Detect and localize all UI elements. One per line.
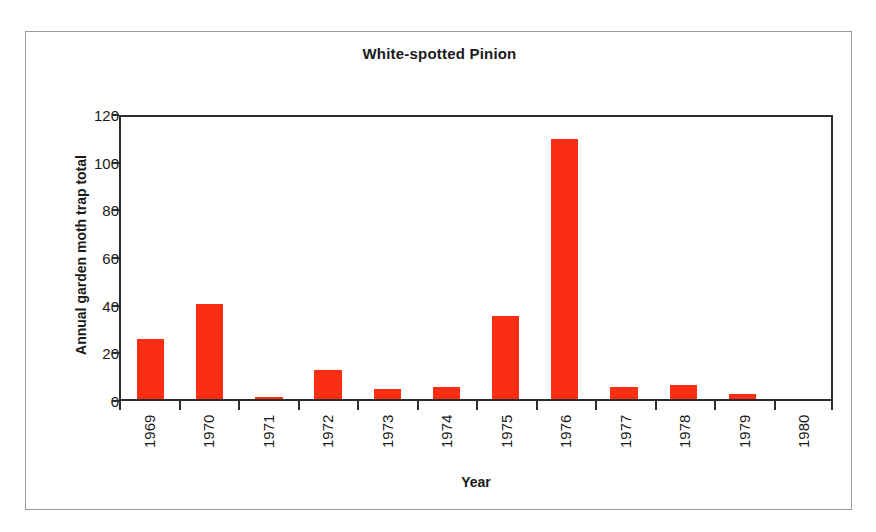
y-tick-mark [112, 209, 119, 211]
x-tick-mark [831, 401, 833, 410]
x-tick-mark [774, 401, 776, 410]
chart-title: White-spotted Pinion [26, 45, 853, 62]
x-tick-label: 1974 [438, 388, 455, 448]
bar-slot [417, 117, 476, 399]
bars-layer [121, 117, 831, 399]
x-label-cell: 1977 [595, 410, 655, 470]
bar [551, 139, 578, 399]
x-tick-label: 1976 [557, 388, 574, 448]
x-tick-label: 1979 [736, 388, 753, 448]
bar [196, 304, 223, 399]
x-tick-label: 1975 [498, 388, 515, 448]
x-label-cell: 1979 [714, 410, 774, 470]
x-tick-mark [179, 401, 181, 410]
x-tick-mark [476, 401, 478, 410]
y-tick-mark [112, 257, 119, 259]
x-tick-label: 1977 [617, 388, 634, 448]
x-tick-mark [595, 401, 597, 410]
bar-slot [358, 117, 417, 399]
x-label-cell: 1974 [417, 410, 477, 470]
x-tick-label: 1969 [141, 388, 158, 448]
plot-area [119, 115, 833, 401]
x-axis-tick-marks [119, 401, 833, 410]
bar-slot [239, 117, 298, 399]
bar-slot [772, 117, 831, 399]
x-tick-mark [238, 401, 240, 410]
y-tick-mark [112, 114, 119, 116]
x-tick-mark [357, 401, 359, 410]
x-label-cell: 1980 [774, 410, 834, 470]
scan-artifact-strip [0, 0, 876, 8]
x-axis-tick-labels: 1969197019711972197319741975197619771978… [119, 410, 833, 470]
x-label-cell: 1969 [119, 410, 179, 470]
bar-slot [121, 117, 180, 399]
x-label-cell: 1973 [357, 410, 417, 470]
x-label-cell: 1978 [655, 410, 715, 470]
x-tick-label: 1978 [676, 388, 693, 448]
x-label-cell: 1971 [238, 410, 298, 470]
bar-slot [594, 117, 653, 399]
x-tick-mark [298, 401, 300, 410]
x-label-cell: 1970 [179, 410, 239, 470]
x-tick-mark [417, 401, 419, 410]
bar-slot [476, 117, 535, 399]
x-tick-mark [536, 401, 538, 410]
x-tick-label: 1980 [795, 388, 812, 448]
x-label-cell: 1975 [476, 410, 536, 470]
y-tick-mark [112, 400, 119, 402]
y-tick-mark [112, 352, 119, 354]
y-tick-mark [112, 162, 119, 164]
bar-slot [299, 117, 358, 399]
x-axis-title: Year [119, 474, 833, 490]
y-axis-tick-marks [112, 115, 119, 401]
bar-slot [535, 117, 594, 399]
x-tick-label: 1971 [260, 388, 277, 448]
x-tick-label: 1972 [319, 388, 336, 448]
x-tick-mark [714, 401, 716, 410]
x-tick-mark [655, 401, 657, 410]
bar [492, 316, 519, 399]
bar-slot [654, 117, 713, 399]
x-label-cell: 1972 [298, 410, 358, 470]
x-tick-mark [119, 401, 121, 410]
bar-slot [180, 117, 239, 399]
x-tick-label: 1973 [379, 388, 396, 448]
x-tick-label: 1970 [200, 388, 217, 448]
y-tick-mark [112, 305, 119, 307]
chart-frame: White-spotted Pinion Annual garden moth … [25, 31, 852, 510]
x-label-cell: 1976 [536, 410, 596, 470]
bar-slot [713, 117, 772, 399]
